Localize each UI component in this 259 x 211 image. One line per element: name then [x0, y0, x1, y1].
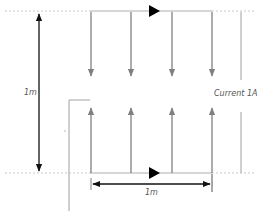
current-label: Current 1A — [214, 90, 257, 98]
diagram-svg — [0, 0, 259, 211]
bottom-direction-arrow-icon — [149, 167, 160, 179]
height-dimension-label: 1m — [24, 89, 37, 97]
up-current-arrows — [91, 108, 212, 173]
left-bracket — [64, 100, 90, 211]
diagram-canvas: 1m 1m Current 1A — [0, 0, 259, 211]
top-direction-arrow-icon — [149, 5, 160, 17]
down-current-arrows — [91, 12, 212, 76]
width-dimension-label: 1m — [145, 189, 158, 197]
